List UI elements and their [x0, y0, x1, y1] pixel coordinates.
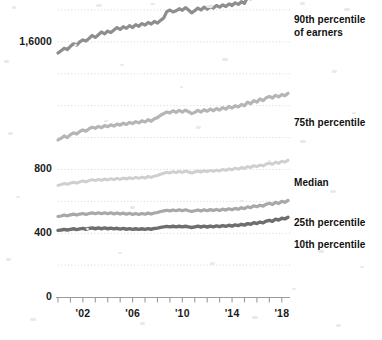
series-label-90th-percentile: 90th percentile of earners [294, 14, 365, 39]
paper-speck [130, 206, 135, 209]
paper-speck [252, 316, 258, 319]
y-axis-tick-label: 1,6000 [0, 35, 52, 47]
paper-speck [330, 190, 336, 193]
paper-speck [352, 112, 356, 114]
series-group [58, 0, 288, 230]
series-label-median: Median [294, 177, 329, 190]
series-label-75th-percentile: 75th percentile [294, 117, 365, 130]
paper-speck [86, 228, 89, 230]
paper-speck [12, 6, 16, 9]
paper-speck [6, 258, 11, 261]
series-line [58, 93, 288, 140]
paper-speck [96, 4, 102, 7]
paper-speck [206, 5, 213, 8]
paper-speck [180, 86, 183, 88]
paper-speck [240, 200, 244, 202]
paper-speck [74, 44, 77, 46]
x-axis [56, 298, 290, 303]
paper-speck [104, 120, 108, 122]
series-line [58, 0, 288, 53]
paper-speck [300, 2, 305, 5]
x-axis-tick-label: '02 [63, 307, 103, 319]
paper-speck [118, 252, 122, 254]
paper-speck [344, 8, 350, 11]
y-axis-tick-label: 0 [0, 290, 52, 302]
paper-speck [140, 322, 145, 325]
paper-speck [16, 196, 20, 198]
paper-speck [150, 3, 155, 5]
paper-speck [222, 58, 228, 61]
paper-speck [210, 262, 215, 265]
x-axis-tick-label: '18 [262, 307, 302, 319]
paper-speck [120, 64, 124, 66]
y-axis-tick-label: 400 [0, 226, 52, 238]
paper-speck [4, 60, 9, 63]
x-axis-tick-label: '14 [212, 307, 252, 319]
paper-speck [292, 288, 296, 290]
paper-speck [8, 132, 13, 135]
paper-speck [336, 324, 341, 327]
chart-container: 1,6000 800 400 0 '02 '06 '10 '14 '18 90t… [0, 0, 382, 340]
paper-speck [30, 318, 36, 321]
series-label-25th-percentile: 25th percentile [294, 217, 365, 230]
x-axis-tick-label: '06 [113, 307, 153, 319]
series-line [58, 160, 288, 185]
series-line [58, 217, 288, 230]
y-axis-tick-label: 800 [0, 162, 52, 174]
paper-speck [318, 250, 324, 253]
paper-speck [360, 266, 364, 268]
paper-speck [300, 140, 306, 143]
paper-speck [268, 160, 271, 162]
series-line [58, 200, 288, 216]
series-label-10th-percentile: 10th percentile [294, 239, 365, 252]
line-chart-plot [0, 0, 382, 340]
paper-speck [196, 126, 201, 129]
x-axis-tick-label: '10 [162, 307, 202, 319]
paper-speck [332, 70, 337, 73]
